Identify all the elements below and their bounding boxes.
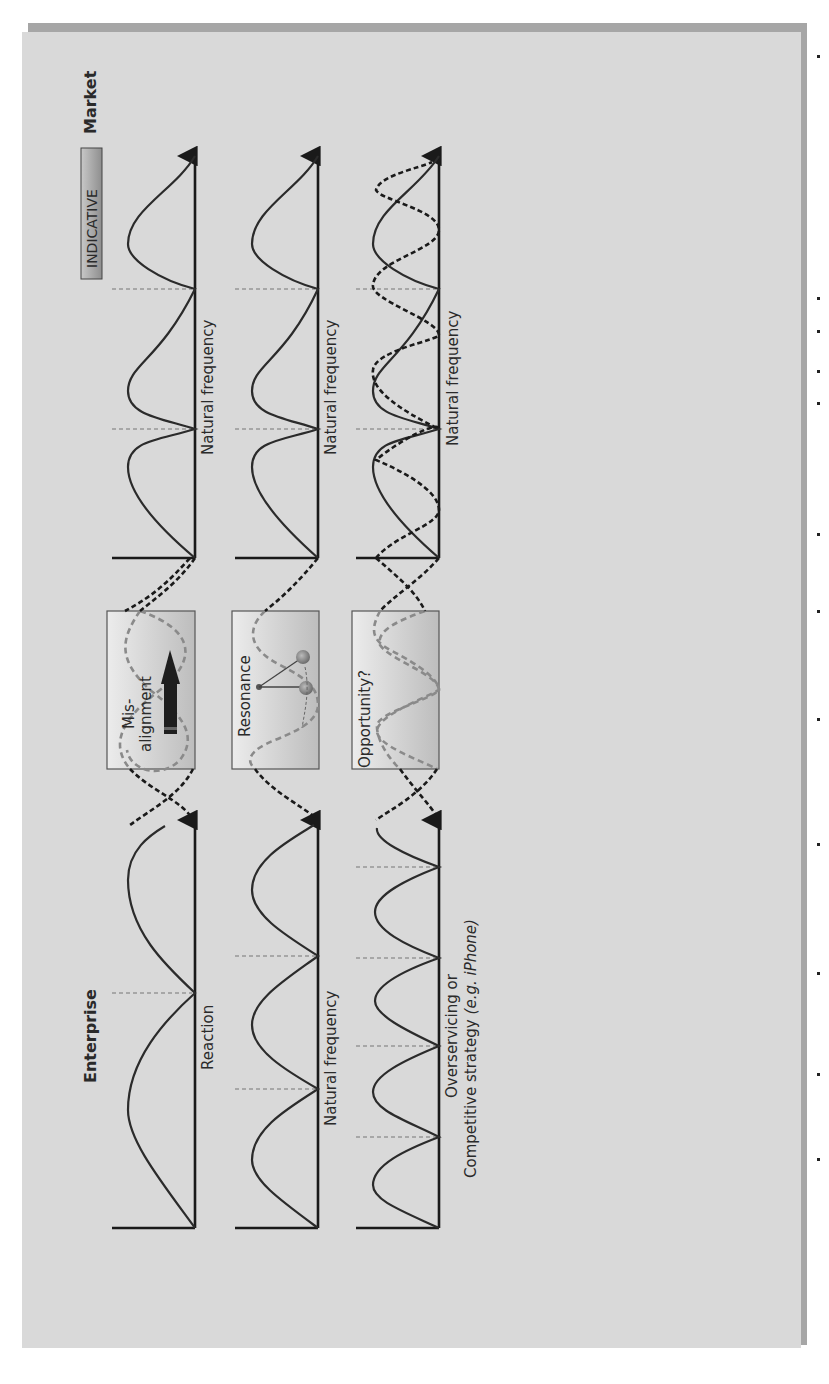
caption-fragment xyxy=(817,330,820,333)
caption-fragment xyxy=(817,1158,820,1161)
caption-fragment xyxy=(817,370,820,373)
misalignment-label-line2: alignment xyxy=(137,676,155,752)
enterprise-title: Enterprise xyxy=(81,989,100,1083)
caption-fragment xyxy=(817,843,820,846)
figure-canvas: INDICATIVE Market Enterprise Natural fre… xyxy=(0,0,829,1384)
caption-fragment xyxy=(817,972,820,975)
caption-fragment xyxy=(817,297,820,300)
enterprise-label-row3-line2: Competitive strategy(e.g. iPhone) xyxy=(462,919,480,1178)
caption-fragment xyxy=(817,1073,820,1076)
market-title: Market xyxy=(81,70,100,134)
enterprise-label-row1: Reaction xyxy=(199,1005,217,1070)
enterprise-label-row3-line1: Overservicing or xyxy=(443,973,461,1098)
caption-fragment xyxy=(817,718,820,721)
caption-fragment xyxy=(817,610,820,613)
caption-fragment xyxy=(817,402,820,405)
market-label-row1: Natural frequency xyxy=(199,320,217,455)
market-label-row2: Natural frequency xyxy=(322,320,340,455)
misalignment-label-line1: Mis- xyxy=(120,699,138,729)
caption-fragment xyxy=(817,55,820,58)
resonance-label: Resonance xyxy=(236,655,254,737)
caption-fragment xyxy=(817,533,820,536)
market-label-row3: Natural frequency xyxy=(444,311,462,446)
enterprise-label-row2: Natural frequency xyxy=(322,991,340,1126)
indicative-badge-label: INDICATIVE xyxy=(84,189,100,268)
indicative-badge: INDICATIVE xyxy=(81,148,102,279)
opportunity-label: Opportunity? xyxy=(356,670,374,768)
